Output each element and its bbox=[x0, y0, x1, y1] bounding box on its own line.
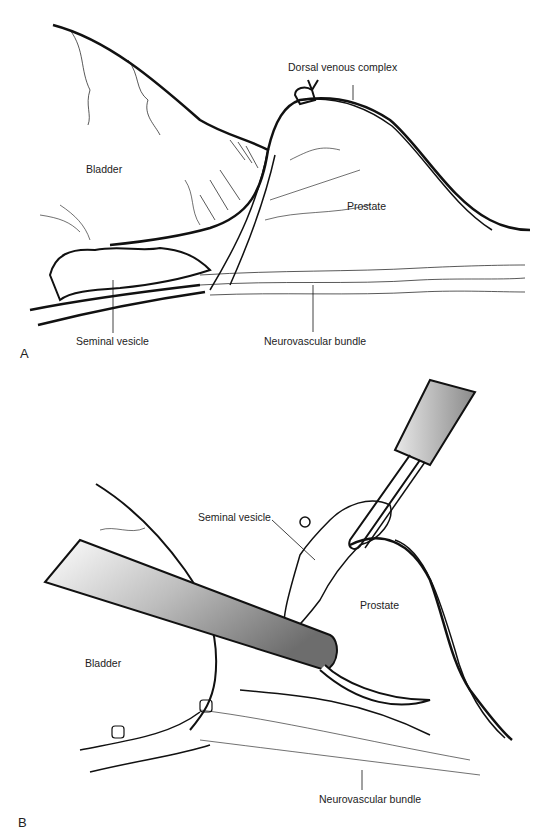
label-bladder-b: Bladder bbox=[85, 657, 121, 669]
panel-letter-a: A bbox=[20, 346, 29, 361]
label-neurovascular-bundle-a: Neurovascular bundle bbox=[264, 335, 366, 347]
label-seminal-vesicle-b: Seminal vesicle bbox=[198, 511, 271, 523]
label-dorsal-venous-complex: Dorsal venous complex bbox=[288, 61, 397, 73]
label-prostate-b: Prostate bbox=[360, 599, 399, 611]
panel-letter-b: B bbox=[18, 815, 27, 830]
label-bladder-a: Bladder bbox=[86, 163, 122, 175]
anatomy-illustration bbox=[0, 0, 535, 837]
label-seminal-vesicle-a: Seminal vesicle bbox=[76, 335, 149, 347]
grasper-instrument bbox=[349, 380, 475, 549]
label-neurovascular-bundle-b: Neurovascular bundle bbox=[319, 793, 421, 805]
label-prostate-a: Prostate bbox=[347, 200, 386, 212]
retractor-instrument bbox=[45, 540, 430, 705]
panel-a-drawing bbox=[30, 25, 530, 333]
